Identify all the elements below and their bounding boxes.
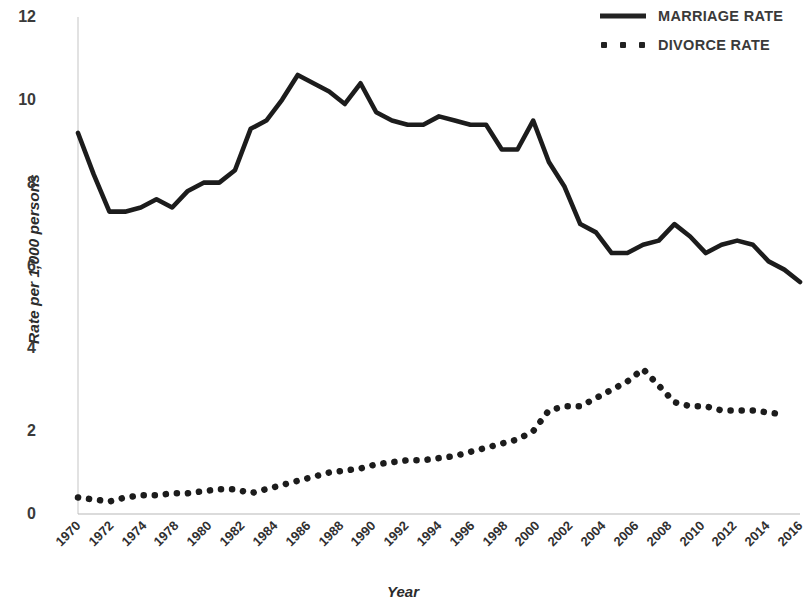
series-line-divorce-rate xyxy=(78,369,784,502)
y-tick-label: 6 xyxy=(0,257,36,275)
plot-area xyxy=(0,0,806,608)
y-tick-label: 12 xyxy=(0,8,36,26)
chart-legend: MARRIAGE RATE DIVORCE RATE xyxy=(600,6,783,55)
dotted-line-swatch-icon xyxy=(600,35,646,55)
y-tick-label: 0 xyxy=(0,505,36,523)
y-tick-label: 4 xyxy=(0,339,36,357)
y-tick-label: 8 xyxy=(0,174,36,192)
legend-item-divorce-rate: DIVORCE RATE xyxy=(600,35,783,55)
series-line-marriage-rate xyxy=(78,75,800,282)
legend-label-divorce-rate: DIVORCE RATE xyxy=(658,37,770,53)
x-axis-title: Year xyxy=(0,583,806,600)
marriage-divorce-rate-chart: MARRIAGE RATE DIVORCE RATE Rate per 1,00… xyxy=(0,0,806,608)
legend-label-marriage-rate: MARRIAGE RATE xyxy=(658,8,783,24)
solid-line-swatch-icon xyxy=(600,6,646,26)
y-tick-label: 10 xyxy=(0,91,36,109)
y-tick-label: 2 xyxy=(0,422,36,440)
legend-item-marriage-rate: MARRIAGE RATE xyxy=(600,6,783,26)
